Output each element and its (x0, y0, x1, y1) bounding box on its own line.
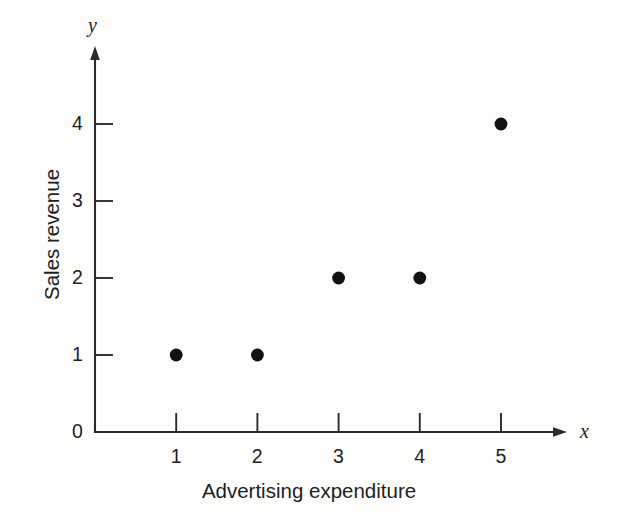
scatter-plot-figure: 01234 12345 y x Sales revenue Advertisin… (0, 0, 618, 519)
x-tick-label: 2 (252, 447, 263, 467)
y-tick-label: 3 (72, 191, 83, 211)
y-axis-title: Sales revenue (40, 169, 64, 300)
y-tick-label: 1 (72, 345, 83, 365)
y-axis-variable-label: y (88, 14, 97, 37)
x-axis-variable-label: x (580, 420, 589, 443)
x-tick-label: 4 (414, 447, 425, 467)
data-point (170, 349, 183, 362)
x-tick-label: 3 (333, 447, 344, 467)
data-point (495, 118, 508, 131)
data-point (413, 272, 426, 285)
y-ticks-group (96, 124, 113, 355)
axes-group (90, 46, 567, 437)
y-axis-arrow-icon (90, 46, 100, 60)
x-tick-label: 5 (495, 447, 506, 467)
plot-canvas (0, 0, 618, 519)
data-point (332, 272, 345, 285)
x-axis-title: Advertising expenditure (0, 479, 618, 503)
y-tick-label: 2 (72, 268, 83, 288)
data-point (251, 349, 264, 362)
data-points-group (170, 118, 508, 362)
x-ticks-group (176, 413, 501, 431)
x-axis-arrow-icon (553, 427, 567, 437)
x-tick-label: 1 (171, 447, 182, 467)
y-tick-label: 4 (72, 114, 83, 134)
y-tick-label: 0 (72, 422, 83, 442)
